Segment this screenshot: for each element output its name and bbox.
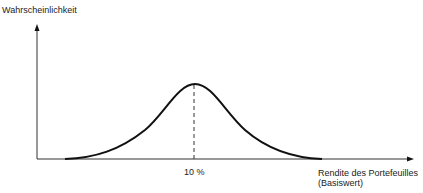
bell-curve-chart (0, 0, 423, 193)
y-axis-arrow-icon (35, 24, 40, 31)
x-axis (37, 157, 414, 162)
x-axis-arrow-icon (407, 157, 414, 162)
y-axis (35, 24, 40, 159)
